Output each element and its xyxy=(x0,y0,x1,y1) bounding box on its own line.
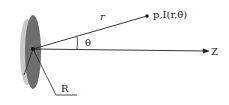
label-z: Z xyxy=(211,46,218,57)
diagram-canvas: r p,I(r,θ) θ Z R xyxy=(0,0,229,105)
point-p-marker xyxy=(145,14,149,18)
z-axis-arrowhead xyxy=(203,49,210,54)
disc-face xyxy=(25,15,41,89)
label-r: r xyxy=(100,11,106,22)
z-axis-line xyxy=(33,49,206,51)
label-disc-radius: R xyxy=(61,83,69,94)
label-theta: θ xyxy=(85,37,91,48)
label-point: p,I(r,θ) xyxy=(153,9,187,20)
